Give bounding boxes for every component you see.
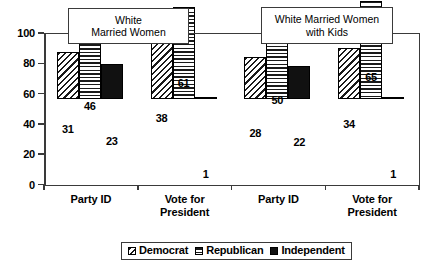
category-label-2: Vote for President [138,193,232,219]
x-tick-edge-0 [43,185,45,190]
legend-swatch-independent-icon [270,247,278,255]
value-label-democrat-group-3: 28 [237,128,273,139]
value-label-republican-group-4: 65 [353,72,389,83]
bar-chart: 020406080100 3146233861128502234651 Part… [0,0,436,271]
category-label-1: Party ID [44,193,138,206]
callout-leader-right-horizontal [393,33,419,34]
bar-independent-group-2 [195,97,217,99]
value-label-independent-group-1: 23 [94,136,130,147]
callout-leader-left-horizontal [44,33,68,34]
x-tick-1 [137,185,139,190]
legend-swatch-democrat-icon [128,247,136,255]
bar-democrat-group-2 [151,41,173,99]
value-label-independent-group-3: 22 [281,137,317,148]
x-tick-3 [325,185,327,190]
legend-label-democrat: Democrat [139,245,188,256]
value-label-democrat-group-1: 31 [50,124,86,135]
annotation-white-married-women: White Married Women [68,8,189,44]
value-label-republican-group-1: 46 [72,101,108,112]
category-label-4: Vote for President [325,193,419,219]
x-tick-2 [231,185,233,190]
bar-democrat-group-1 [57,52,79,99]
category-label-3: Party ID [232,193,326,206]
callout-leader-middle [189,33,261,34]
bar-independent-group-1 [101,64,123,99]
value-label-independent-group-4: 1 [375,169,411,180]
value-label-republican-group-2: 61 [166,78,202,89]
bar-independent-group-4 [382,97,404,99]
legend-item-independent: Independent [270,245,344,256]
x-tick-edge-1 [418,185,420,190]
chart-legend: DemocratRepublicanIndependent [121,242,352,260]
annotation-white-married-women-with-kids: White Married Women with Kids [261,7,393,44]
legend-item-republican: Republican [195,245,263,256]
value-label-democrat-group-4: 34 [331,119,367,130]
value-label-independent-group-2: 1 [188,169,224,180]
value-label-democrat-group-2: 38 [144,113,180,124]
value-label-republican-group-3: 50 [259,95,295,106]
legend-swatch-republican-icon [195,247,203,255]
bar-democrat-group-3 [244,57,266,99]
legend-label-independent: Independent [281,245,344,256]
legend-label-republican: Republican [206,245,263,256]
legend-item-democrat: Democrat [128,245,188,256]
